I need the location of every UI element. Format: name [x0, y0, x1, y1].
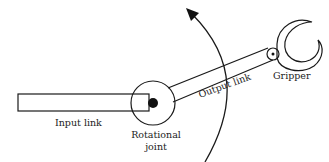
input-link-bar	[18, 94, 149, 111]
input-link-label: Input link	[55, 117, 102, 128]
rotational-joint-label-line1: Rotational	[131, 129, 181, 140]
output-link-label: Output link	[197, 71, 252, 100]
robot-arm-diagram: Input link Rotational joint Output link …	[0, 0, 329, 162]
rotational-joint-label-line2: joint	[144, 141, 167, 152]
rotational-joint-icon	[131, 81, 175, 125]
gripper-label: Gripper	[273, 70, 311, 81]
gripper-icon	[267, 20, 322, 70]
